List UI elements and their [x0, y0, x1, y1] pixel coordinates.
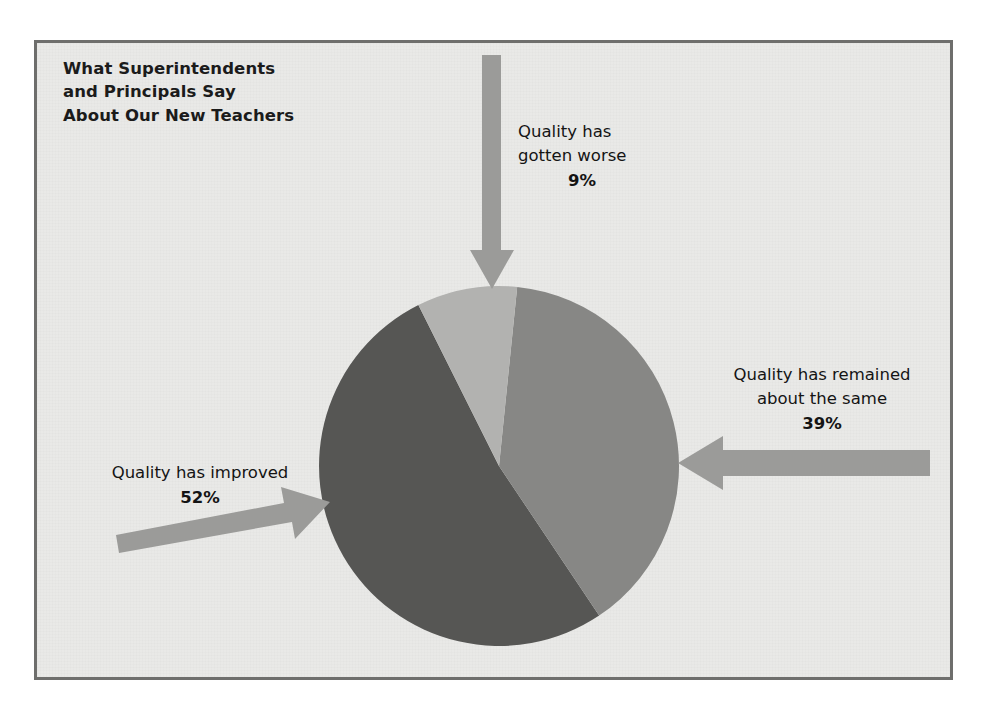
label-gotten-worse: Quality has gotten worse 9%: [518, 120, 646, 193]
label-remained-same-percent: 39%: [697, 412, 947, 436]
pie-slices: [319, 286, 679, 646]
label-gotten-worse-line2: gotten worse: [518, 144, 646, 168]
label-improved: Quality has improved 52%: [84, 461, 316, 510]
arrow-down-icon: [470, 55, 514, 289]
figure-root: What Superintendents and Principals Say …: [0, 0, 990, 723]
label-gotten-worse-percent: 9%: [518, 169, 646, 193]
label-improved-line1: Quality has improved: [84, 461, 316, 485]
arrow-left-icon: [678, 436, 930, 490]
chart-title: What Superintendents and Principals Say …: [63, 57, 393, 127]
label-gotten-worse-line1: Quality has: [518, 120, 646, 144]
label-remained-same: Quality has remained about the same 39%: [697, 363, 947, 436]
label-remained-same-line1: Quality has remained: [697, 363, 947, 387]
label-remained-same-line2: about the same: [697, 387, 947, 411]
label-improved-percent: 52%: [84, 486, 316, 510]
